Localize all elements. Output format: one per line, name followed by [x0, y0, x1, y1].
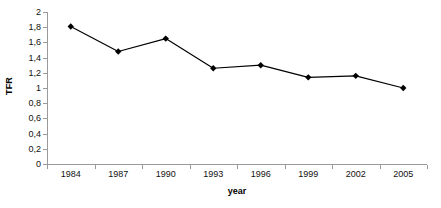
y-tick-label: 0,2 — [28, 144, 41, 153]
x-tick-label: 1984 — [61, 169, 81, 180]
series-line — [71, 26, 404, 88]
x-tick-label: 1990 — [156, 169, 176, 180]
y-tick-label: 1,2 — [28, 68, 41, 77]
data-point-marker — [353, 73, 359, 79]
y-tick-label: 1 — [36, 84, 41, 93]
plot-area — [47, 12, 427, 164]
y-tick-label: 0,6 — [28, 114, 41, 123]
data-point-marker — [163, 35, 169, 41]
x-tick-label: 2005 — [393, 169, 413, 180]
x-tick-label: 1993 — [203, 169, 223, 180]
y-axis-title: TFR — [0, 0, 18, 172]
y-tick-label: 1,4 — [28, 53, 41, 62]
y-tick-label: 0,4 — [28, 129, 41, 138]
y-tick-label: 1,8 — [28, 23, 41, 32]
y-tick-label: 0,8 — [28, 99, 41, 108]
x-tick-label: 1999 — [298, 169, 318, 180]
y-tick-label: 2 — [36, 8, 41, 17]
series-plot — [47, 12, 427, 164]
data-point-marker — [400, 85, 406, 91]
x-tick-label: 1987 — [108, 169, 128, 180]
data-point-marker — [305, 74, 311, 80]
data-point-marker — [68, 23, 74, 29]
tfr-line-chart: TFR 00,20,40,60,811,21,41,61,82 19841987… — [0, 0, 441, 208]
x-axis-tick-labels: 19841987199019931996199920022005 — [47, 169, 427, 183]
y-axis-title-label: TFR — [4, 77, 14, 95]
data-point-marker — [115, 48, 121, 54]
data-point-marker — [210, 65, 216, 71]
x-axis-title: year — [47, 186, 427, 196]
data-point-marker — [258, 62, 264, 68]
y-axis-tick-labels: 00,20,40,60,811,21,41,61,82 — [18, 12, 44, 164]
y-tick-label: 0 — [36, 160, 41, 169]
x-tick-label: 1996 — [251, 169, 271, 180]
x-tick-mark — [427, 165, 428, 169]
y-tick-label: 1,6 — [28, 38, 41, 47]
x-tick-label: 2002 — [346, 169, 366, 180]
